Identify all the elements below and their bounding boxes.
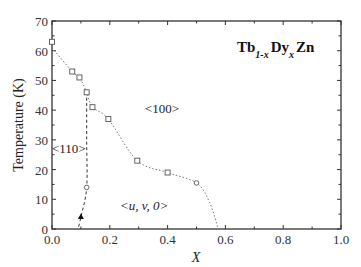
square-marker: [165, 170, 170, 175]
triangle-marker: [78, 214, 84, 220]
chart-title: Tb1-xDyxZn: [237, 39, 315, 60]
title-tb: Tb: [237, 39, 255, 55]
x-tick-label: 0.8: [275, 232, 291, 247]
title-dy: Dy: [271, 39, 290, 55]
title-tb-sub: 1-x: [255, 49, 268, 60]
x-axis-title: X: [191, 250, 201, 265]
data-markers: [50, 39, 199, 219]
square-marker: [70, 69, 75, 74]
x-tick-label: 1.0: [333, 232, 349, 247]
title-zn: Zn: [296, 39, 315, 55]
region-label-100: <100>: [145, 101, 179, 116]
phase-diagram-chart: 0.00.20.40.60.81.0010203040506070 X Temp…: [0, 0, 361, 267]
region-label-110: <110>: [52, 141, 86, 156]
title-dy-sub: x: [288, 49, 294, 60]
y-tick-label: 30: [35, 133, 48, 148]
square-marker: [77, 75, 82, 80]
x-tick-label: 0.6: [217, 232, 234, 247]
circle-marker: [84, 185, 89, 190]
square-marker: [90, 105, 95, 110]
y-tick-label: 10: [35, 192, 48, 207]
square-marker: [135, 158, 140, 163]
x-tick-label: 0.4: [159, 232, 176, 247]
circle-marker: [194, 181, 199, 186]
y-tick-label: 60: [35, 44, 48, 59]
square-marker: [84, 90, 89, 95]
dashed-phase-boundary: [78, 92, 87, 229]
y-tick-label: 70: [35, 14, 48, 29]
square-marker: [50, 39, 55, 44]
y-tick-label: 20: [35, 163, 48, 178]
region-label-uv0: <u, v, 0>: [120, 198, 168, 213]
y-tick-label: 40: [35, 103, 48, 118]
y-axis-title: Temperature (K): [11, 78, 27, 172]
x-tick-label: 0.2: [102, 232, 118, 247]
y-tick-label: 0: [42, 222, 49, 237]
y-tick-label: 50: [35, 73, 48, 88]
square-marker: [106, 117, 111, 122]
